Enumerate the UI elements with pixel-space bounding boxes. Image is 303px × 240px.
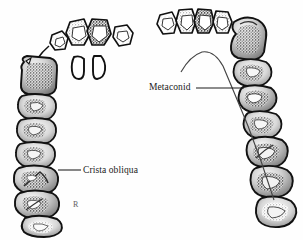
- upper-premolar-2: [17, 118, 56, 144]
- detached-incisor-left: [72, 56, 84, 79]
- dental-arcade-illustration: [0, 0, 303, 240]
- upper-incisor-left: [66, 19, 90, 45]
- crista-obliqua-label: Crista obliqua: [83, 165, 138, 176]
- lower-premolar-1: [234, 59, 272, 86]
- upper-premolar-1: [18, 94, 56, 120]
- upper-incisor-outer-right: [113, 25, 133, 46]
- lower-incisor-left: [176, 9, 196, 33]
- upper-canine: [21, 56, 57, 95]
- lower-premolar-3: [244, 111, 282, 138]
- lower-canine: [231, 17, 266, 60]
- upper-premolar-3: [16, 142, 55, 168]
- dental-arcade-figure: Crista obliqua Metaconid R: [0, 0, 303, 240]
- lower-incisor-right: [194, 9, 214, 33]
- upper-incisor-right: [87, 19, 111, 45]
- lower-molar-3: [256, 197, 296, 228]
- upper-molar-3: [22, 216, 62, 237]
- metaconid-label: Metaconid: [149, 82, 191, 93]
- artist-signature-mark: R: [73, 200, 78, 209]
- lower-incisor-outer-right: [213, 11, 232, 33]
- upper-molar-2: [15, 191, 59, 219]
- lower-molar-1: [247, 137, 288, 168]
- detached-incisor-right: [93, 56, 105, 79]
- lower-premolar-2: [239, 85, 277, 112]
